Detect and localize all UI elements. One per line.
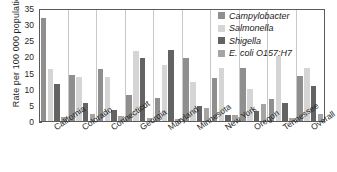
y-tick-label: 20 [25, 52, 34, 62]
legend-swatch-icon [218, 50, 225, 57]
bar-group [154, 10, 183, 121]
x-axis-labels: CaliforniaColoradoConnecticutGeorgiaMary… [39, 124, 325, 170]
y-tick-label: 0 [29, 117, 34, 127]
bar-group [97, 10, 126, 121]
y-tick-label: 30 [25, 20, 34, 30]
legend-item: Shigella [218, 35, 292, 46]
legend-item: E. coli O157:H7 [218, 48, 292, 59]
chart-legend: CampylobacterSalmonellaShigellaE. coli O… [218, 10, 292, 59]
legend-label: Shigella [229, 36, 261, 46]
legend-swatch-icon [218, 37, 225, 44]
legend-swatch-icon [218, 25, 225, 32]
legend-swatch-icon [218, 12, 225, 19]
y-tick-label: 25 [25, 36, 34, 46]
y-tick-label: 15 [25, 69, 34, 79]
legend-label: Campylobacter [229, 11, 290, 21]
bar [48, 69, 54, 121]
bar [41, 18, 47, 121]
legend-item: Campylobacter [218, 10, 292, 21]
y-tick-label: 10 [25, 85, 34, 95]
bar-group [40, 10, 69, 121]
legend-label: Salmonella [229, 23, 274, 33]
bar [54, 84, 60, 121]
legend-item: Salmonella [218, 23, 292, 34]
bar [168, 50, 174, 121]
bar-group [183, 10, 212, 121]
y-tick-label: 5 [29, 101, 34, 111]
y-tick-label: 35 [25, 4, 34, 14]
legend-label: E. coli O157:H7 [229, 48, 292, 58]
y-tick-mark [39, 122, 42, 123]
y-axis-title: Rate per 100 000 population [11, 0, 21, 108]
